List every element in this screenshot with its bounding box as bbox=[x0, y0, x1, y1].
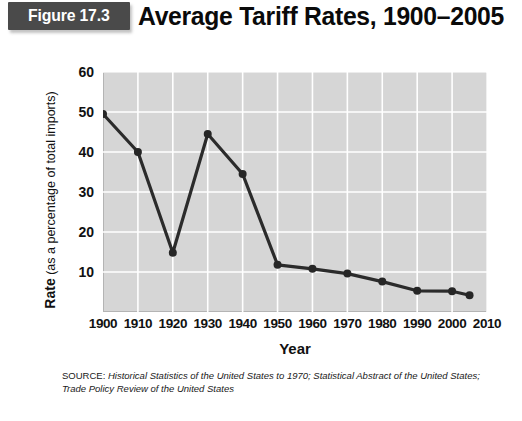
source-note: SOURCE: Historical Statistics of the Uni… bbox=[62, 370, 492, 395]
tariff-rate-line bbox=[103, 114, 470, 295]
page-title: Average Tariff Rates, 1900–2005 bbox=[138, 0, 501, 33]
source-note-lead: SOURCE: bbox=[62, 370, 108, 381]
data-point bbox=[466, 291, 474, 299]
data-point bbox=[274, 261, 282, 269]
figure-number-badge: Figure 17.3 bbox=[8, 2, 130, 30]
y-tick-label: 30 bbox=[54, 184, 94, 200]
y-tick-label: 60 bbox=[54, 64, 94, 80]
series-plot bbox=[103, 72, 487, 312]
y-axis-ticks: 102030405060 bbox=[58, 72, 98, 312]
x-axis-ticks: 1900191019201930194019501960197019801990… bbox=[103, 316, 487, 336]
data-point bbox=[169, 249, 177, 257]
y-axis-label-bold: Rate bbox=[42, 278, 58, 308]
x-tick-label: 2010 bbox=[464, 316, 510, 331]
plot-area bbox=[103, 72, 487, 312]
figure-header: Figure 17.3 Average Tariff Rates, 1900–2… bbox=[0, 0, 522, 40]
y-tick-label: 20 bbox=[54, 224, 94, 240]
x-axis-label: Year bbox=[103, 340, 487, 357]
y-tick-label: 50 bbox=[54, 104, 94, 120]
data-point bbox=[343, 270, 351, 278]
data-point bbox=[413, 287, 421, 295]
data-point bbox=[448, 287, 456, 295]
data-point bbox=[308, 265, 316, 273]
y-tick-label: 10 bbox=[54, 264, 94, 280]
data-point bbox=[239, 170, 247, 178]
chart-container: Rate (as a percentage of total imports) … bbox=[0, 40, 522, 421]
horizontal-gridlines bbox=[103, 72, 487, 272]
data-point bbox=[378, 278, 386, 286]
data-point bbox=[134, 148, 142, 156]
data-point bbox=[204, 130, 212, 138]
figure-number-label: Figure 17.3 bbox=[28, 6, 109, 26]
y-tick-label: 40 bbox=[54, 144, 94, 160]
source-note-citation: Historical Statistics of the United Stat… bbox=[62, 370, 480, 394]
